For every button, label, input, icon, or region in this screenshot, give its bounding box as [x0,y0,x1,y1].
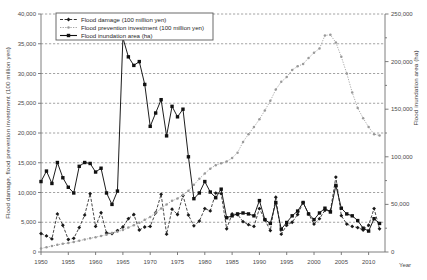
data-point [285,76,288,79]
data-point [285,221,288,224]
data-point [269,100,272,103]
data-point [176,115,179,118]
data-point [247,212,250,215]
data-point [67,186,70,189]
data-point [247,133,250,136]
data-point [252,214,255,217]
x-tick-label: 2005 [335,259,349,265]
data-point [72,191,75,194]
data-point [111,232,114,235]
left-tick-label: 35,000 [18,41,37,47]
data-point [258,118,261,121]
data-point [345,212,348,215]
data-point [264,109,267,112]
data-point [170,105,173,108]
data-point [275,88,278,91]
data-point [290,214,293,217]
data-point [378,222,381,225]
chart-canvas: 05,00010,00015,00020,00025,00030,00035,0… [0,0,427,280]
data-point [231,157,234,160]
x-tick-label: 1965 [116,259,130,265]
data-point [219,187,222,190]
data-point [198,191,201,194]
x-tick-label: 1990 [253,259,267,265]
data-point [307,57,310,60]
data-point [356,219,359,222]
data-point [99,167,102,170]
x-tick-label: 1955 [62,259,76,265]
data-point [274,201,277,204]
data-point [230,214,233,217]
data-point [110,203,113,206]
right-tick-label: 250,000 [391,11,413,17]
data-point [280,81,283,84]
data-point [160,207,163,210]
data-point [100,235,103,238]
data-point [105,233,108,236]
data-point [67,242,70,245]
data-point [61,176,64,179]
x-tick-label: 2000 [307,259,321,265]
data-point [335,41,338,44]
data-point [181,108,184,111]
data-point [361,227,364,230]
data-point [351,91,354,94]
data-point [187,155,190,158]
data-point [312,218,315,221]
legend-item-2: Flood prevention investment (100 million… [60,24,204,31]
data-point [138,222,141,225]
data-point [73,241,76,244]
data-point [329,210,332,213]
data-point [50,182,53,185]
data-point [132,64,135,67]
data-point [198,178,201,181]
data-point [367,126,370,129]
data-point [258,199,261,202]
data-point [171,200,174,203]
data-point [362,117,365,120]
data-point [241,211,244,214]
data-point [133,224,136,227]
flood-statistics-chart: 05,00010,00015,00020,00025,00030,00035,0… [0,0,427,280]
right-tick-label: 50,000 [391,201,410,207]
right-tick-label: 200,000 [391,59,413,65]
data-point [356,107,359,110]
data-point [220,162,223,165]
data-point [307,212,310,215]
data-point [89,237,92,240]
data-point [116,189,119,192]
left-tick-label: 30,000 [18,71,37,77]
x-tick-label: 1960 [89,259,103,265]
data-point [94,170,97,173]
data-point [214,164,217,167]
right-tick-label: 100,000 [391,154,413,160]
left-tick-label: 40,000 [18,11,37,17]
left-tick-label: 20,000 [18,130,37,136]
data-point [116,231,119,234]
data-point [378,134,381,137]
data-point [318,47,321,50]
data-point [236,151,239,154]
data-point [45,246,48,249]
data-point [56,161,59,164]
chart-legend: Flood damage (100 million yen)Flood prev… [56,13,213,40]
data-point [143,219,146,222]
data-point [192,197,195,200]
data-point [209,167,212,170]
data-point [78,239,81,242]
data-point [301,201,304,204]
right-axis-title: Flood inundation area (ha) [412,50,419,125]
x-axis-title: Year [399,262,411,268]
data-point [340,207,343,210]
data-point [187,189,190,192]
data-point [204,172,207,175]
data-point [367,229,370,232]
data-point [242,141,245,144]
data-point [176,197,179,200]
data-point [154,111,157,114]
data-point [324,34,327,37]
left-tick-label: 5,000 [21,219,37,225]
data-point [193,184,196,187]
data-point [88,162,91,165]
left-axis-ticks: 05,00010,00015,00020,00025,00030,00035,0… [18,11,41,255]
